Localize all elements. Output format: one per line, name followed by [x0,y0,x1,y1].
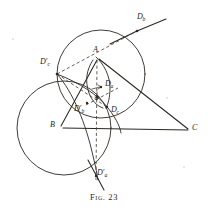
point-label-Dc-sub: c [117,109,120,115]
point-Db-dot [136,30,139,33]
figure-caption: Fig. 23 [0,192,208,202]
point-label-Da-sub: a [111,83,114,89]
side-CA [99,59,188,129]
upper-circle [57,30,145,118]
point-label-Da: Da [105,80,114,88]
point-label-Dc: Dc [111,106,119,114]
point-label-Dc-prime-base: D [40,57,46,66]
point-label-Db: Db [137,13,146,21]
point-label-Da-prime-base: D [97,168,103,177]
point-label-Db-prime-sub: b [81,108,84,114]
point-label-Da-base: D [105,79,111,88]
geometry-drawing [0,0,208,212]
point-label-Db-prime-base: D [74,104,80,113]
point-Dc-prime-dot [56,73,59,76]
caption-number: 23 [108,192,118,202]
point-Dc-dot [106,106,108,108]
side-BC [63,128,188,130]
point-label-Db-base: D [137,12,143,21]
point-Db-prime-dot [86,102,88,104]
point-label-Dc-prime-sub: c [47,61,50,67]
paper-speck [183,166,185,168]
incircle-arc-left [87,60,103,108]
paper-speck [166,97,168,99]
vertex-label-A: A [93,46,98,54]
cevian-Dcprime-to-Dc [57,74,107,107]
point-label-Db-sub: b [143,16,146,22]
point-label-Dc-base: D [111,105,117,114]
point-label-Da-prime-sub: a [104,172,107,178]
paper-speck [12,38,14,40]
figure-container: A B C Da Db Dc D′a D′b D′c Fig. 23 [0,0,208,212]
point-label-Db-prime: D′b [74,105,85,113]
point-label-Dc-prime: D′c [40,58,50,66]
caption-prefix: Fig. [90,192,106,202]
point-label-Da-prime: D′a [97,169,108,177]
vertex-label-B: B [50,121,55,129]
side-AB [61,60,97,126]
vertex-label-C: C [192,124,197,132]
